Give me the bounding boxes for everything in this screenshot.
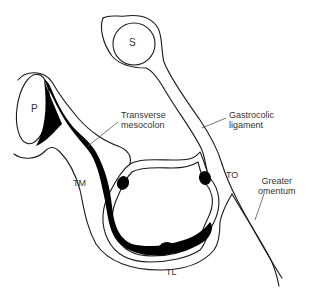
taenia-mesocolica-mark — [115, 174, 131, 191]
taenia-libera-label: TL — [166, 267, 177, 277]
transverse-mesocolon-line-1: Transverse — [121, 110, 166, 120]
taenia-libera-mark — [159, 242, 175, 254]
diagram-canvas: S P TM TO TL Transverse mesocolon Gastro… — [0, 0, 310, 291]
stomach-label: S — [129, 38, 136, 48]
greater-omentum-label: Greater omentum — [258, 176, 296, 196]
mesocolon-fat-band — [44, 80, 212, 256]
transverse-mesocolon-label: Transverse mesocolon — [121, 110, 166, 130]
greater-omentum-line-1: Greater — [258, 176, 296, 186]
greater-omentum-leader — [255, 194, 264, 220]
colon-cross-section-drawing — [0, 0, 310, 291]
greater-omentum-inner — [232, 194, 279, 286]
taenia-mesocolica-label: TM — [73, 178, 86, 188]
transverse-mesocolon-leader — [88, 122, 118, 146]
pancreas-peritoneum-upper — [18, 73, 131, 164]
gastrocolic-line-2: ligament — [229, 120, 274, 130]
gastrocolic-ligament-label: Gastrocolic ligament — [229, 110, 274, 130]
greater-omentum-line-2: omentum — [258, 186, 296, 196]
gastrocolic-ligament-leader — [202, 118, 226, 128]
gastrocolic-line-1: Gastrocolic — [229, 110, 274, 120]
stomach-serosa-left — [103, 16, 222, 165]
pancreas-label: P — [31, 104, 38, 114]
taenia-omentalis-mark — [197, 170, 212, 187]
transverse-mesocolon-line-2: mesocolon — [121, 120, 166, 130]
taenia-omentalis-label: TO — [226, 170, 238, 180]
